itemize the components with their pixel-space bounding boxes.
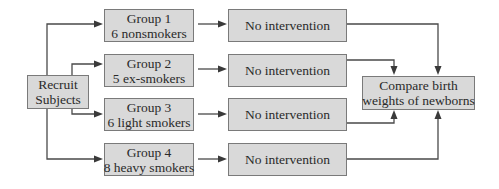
group-subtitle: 5 ex-smokers xyxy=(113,71,185,86)
arrow-treatment-3-to-outcome xyxy=(346,117,394,123)
group-title: Group 1 xyxy=(127,11,172,26)
treatment-4-box: No intervention xyxy=(228,143,347,176)
group-subtitle: 6 nonsmokers xyxy=(111,26,186,41)
treatment-1-box: No intervention xyxy=(228,9,347,42)
outcome-line-1: Compare birth xyxy=(379,78,457,93)
treatment-label: No intervention xyxy=(245,107,330,122)
group-title: Group 4 xyxy=(127,145,172,160)
recruit-line-1: Recruit xyxy=(38,77,78,92)
arrow-treatment-1-to-outcome xyxy=(346,24,438,68)
group-subtitle: 8 heavy smokers xyxy=(104,160,195,175)
arrowhead-group-3 xyxy=(94,111,103,118)
group-2-box: Group 2 5 ex-smokers xyxy=(104,54,194,87)
arrowhead-group-2 xyxy=(94,61,103,68)
treatment-label: No intervention xyxy=(245,63,330,78)
treatment-label: No intervention xyxy=(245,18,330,33)
recruit-subjects-box: Recruit Subjects xyxy=(27,75,89,109)
group-3-box: Group 3 6 light smokers xyxy=(104,98,194,131)
group-subtitle: 6 light smokers xyxy=(107,115,190,130)
group-1-box: Group 1 6 nonsmokers xyxy=(104,9,194,42)
outcome-line-2: weights of newborns xyxy=(362,93,474,108)
treatment-label: No intervention xyxy=(245,152,330,167)
group-title: Group 2 xyxy=(127,56,172,71)
treatment-2-box: No intervention xyxy=(228,54,347,87)
arrowhead-group-4 xyxy=(94,156,103,163)
arrow-treatment-2-to-outcome xyxy=(346,60,394,68)
arrow-recruit-to-group-2 xyxy=(72,64,96,75)
group-4-box: Group 4 8 heavy smokers xyxy=(104,143,194,176)
group-title: Group 3 xyxy=(127,100,172,115)
recruit-line-2: Subjects xyxy=(35,92,81,107)
arrowhead-group-1 xyxy=(94,21,103,28)
compare-outcome-box: Compare birth weights of newborns xyxy=(362,76,475,110)
treatment-3-box: No intervention xyxy=(228,98,347,131)
arrow-recruit-to-group-4 xyxy=(47,108,96,159)
